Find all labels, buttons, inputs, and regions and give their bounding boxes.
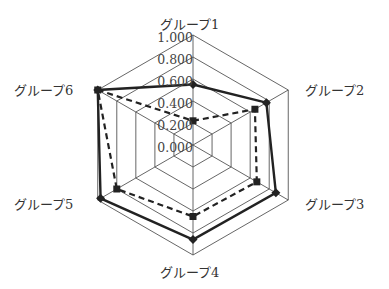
radial-tick-label: 0.000 bbox=[157, 140, 193, 155]
square-marker-icon bbox=[251, 106, 258, 113]
radar-chart bbox=[0, 0, 389, 289]
square-marker-icon bbox=[113, 186, 120, 193]
category-label: グループ3 bbox=[305, 194, 364, 213]
radial-tick-label: 1.000 bbox=[157, 30, 193, 45]
square-marker-icon bbox=[94, 87, 101, 94]
square-marker-icon bbox=[190, 213, 197, 220]
category-label: グループ4 bbox=[160, 262, 219, 281]
category-label: グループ6 bbox=[14, 80, 73, 99]
category-label: グループ2 bbox=[305, 80, 364, 99]
radial-tick-label: 0.200 bbox=[157, 118, 193, 133]
radial-tick-label: 0.400 bbox=[157, 96, 193, 111]
category-label: グループ5 bbox=[14, 194, 73, 213]
square-marker-icon bbox=[253, 178, 260, 185]
radial-tick-label: 0.800 bbox=[157, 52, 193, 67]
radial-tick-label: 0.600 bbox=[157, 74, 193, 89]
